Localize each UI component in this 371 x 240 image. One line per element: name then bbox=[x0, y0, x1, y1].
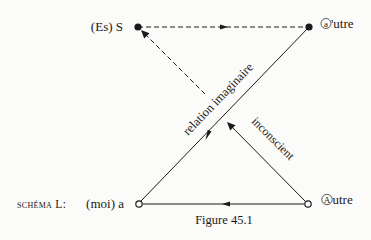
label-other-little: a 'utre bbox=[321, 16, 354, 31]
label-subject: (Es) S bbox=[91, 19, 123, 34]
edge-bottom-solid bbox=[143, 202, 304, 207]
schema-l-diagram: (Es) S a 'utre (moi) a A utre schéma L: … bbox=[0, 0, 371, 240]
node-ego bbox=[136, 201, 142, 207]
arrow-right-icon bbox=[220, 25, 228, 30]
label-other-big: A utre bbox=[322, 192, 353, 207]
node-other-big bbox=[305, 201, 311, 207]
node-other-little bbox=[305, 23, 312, 30]
svg-text:utre: utre bbox=[333, 192, 353, 207]
arrow-left-icon bbox=[222, 202, 230, 207]
figure-caption: Figure 45.1 bbox=[195, 213, 253, 227]
node-subject bbox=[134, 23, 141, 30]
svg-text:'utre: 'utre bbox=[331, 16, 354, 31]
label-ego: (moi) a bbox=[86, 196, 124, 211]
edge-dashed-to-subject bbox=[141, 30, 205, 94]
edge-imaginary-relation bbox=[141, 27, 309, 201]
svg-text:A: A bbox=[324, 195, 331, 205]
arrow-down-left-icon bbox=[206, 130, 212, 140]
edge-top-dashed bbox=[138, 25, 309, 30]
schema-label: schéma L: bbox=[17, 198, 66, 210]
edge-label-unconscious: inconscient bbox=[249, 114, 298, 163]
svg-text:a: a bbox=[324, 19, 328, 29]
edge-label-imaginary-relation: relation imaginaire bbox=[180, 60, 256, 138]
